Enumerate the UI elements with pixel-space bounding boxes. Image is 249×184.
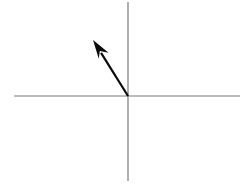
vector-diagram-canvas bbox=[0, 0, 249, 184]
vector-diagram-figure bbox=[0, 0, 249, 184]
